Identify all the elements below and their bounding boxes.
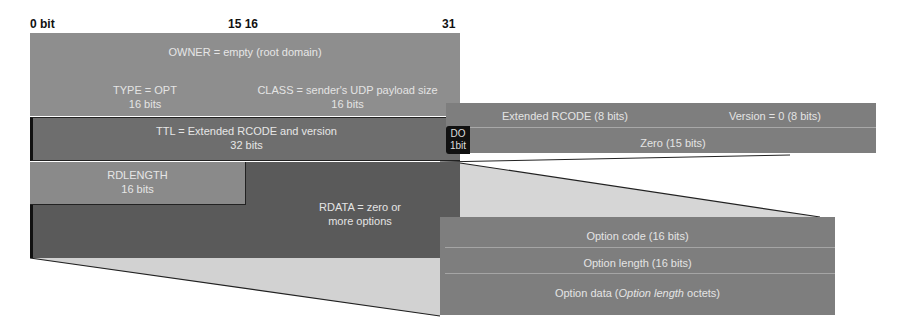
type-field: TYPE = OPT 16 bits <box>60 83 230 111</box>
option-length-field: Option length (16 bits) <box>440 256 835 270</box>
option-divider-2 <box>445 273 835 274</box>
ttl-label: TTL = Extended RCODE and version <box>33 118 460 138</box>
ttl-bits: 32 bits <box>33 138 460 152</box>
do-flag-field: DO 1bit <box>446 126 470 154</box>
option-data-field: Option data (Option length octets) <box>440 286 835 300</box>
type-bits: 16 bits <box>60 97 230 111</box>
class-label: CLASS = sender's UDP payload size <box>235 83 460 97</box>
version-field: Version = 0 (8 bits) <box>700 109 850 123</box>
rdlength-label: RDLENGTH <box>30 162 245 182</box>
option-data-italic: Option length <box>619 287 684 299</box>
extended-rcode-field: Extended RCODE (8 bits) <box>470 109 660 123</box>
ttl-detail-divider <box>470 127 876 128</box>
rdlength-bits: 16 bits <box>30 182 245 196</box>
rdata-label-2: more options <box>300 214 420 228</box>
type-label: TYPE = OPT <box>60 83 230 97</box>
rdata-label: RDATA = zero or <box>300 200 420 214</box>
option-data-suffix: octets) <box>684 287 720 299</box>
ttl-field: TTL = Extended RCODE and version 32 bits <box>30 117 460 161</box>
option-data-prefix: Option data ( <box>555 287 619 299</box>
class-bits: 16 bits <box>235 97 460 111</box>
zero-field: Zero (15 bits) <box>470 136 876 150</box>
option-code-field: Option code (16 bits) <box>440 229 835 243</box>
class-field: CLASS = sender's UDP payload size 16 bit… <box>235 83 460 111</box>
owner-field: OWNER = empty (root domain) <box>30 33 460 71</box>
rdata-label-block: RDATA = zero or more options <box>300 200 420 228</box>
owner-label: OWNER = empty (root domain) <box>30 33 460 59</box>
do-flag-bits: 1bit <box>446 140 470 152</box>
option-divider-1 <box>445 247 835 248</box>
rdlength-field: RDLENGTH 16 bits <box>30 162 246 205</box>
do-flag-label: DO <box>446 128 470 140</box>
